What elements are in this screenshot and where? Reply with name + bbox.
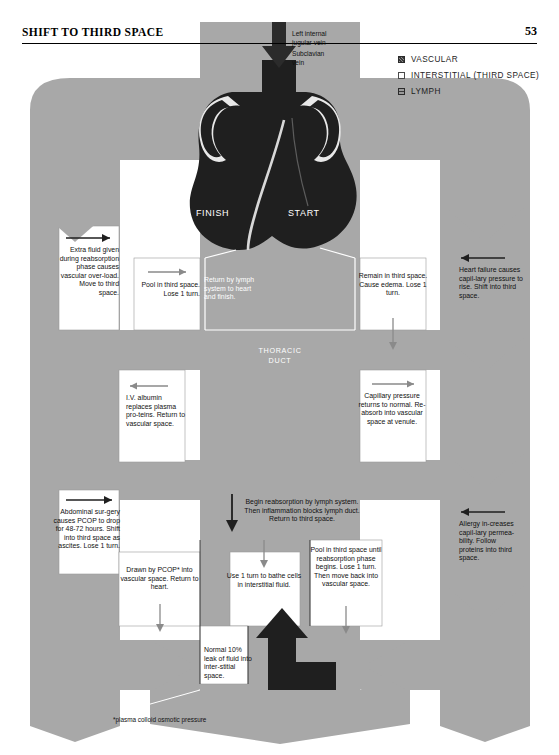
label-finish: FINISH — [196, 208, 229, 218]
cell-allergy: Allergy in-creases capil-lary permea-bil… — [459, 520, 521, 563]
cell-extra-fluid: Extra fluid given during reabsorption ph… — [57, 246, 119, 298]
cell-normal-leak: Normal 10% leak of fluid into inter-stit… — [204, 646, 252, 680]
legend: VASCULAR INTERSTITIAL (THIRD SPACE) LYMP… — [398, 53, 558, 101]
page-title: SHIFT TO THIRD SPACE — [22, 26, 163, 38]
cell-capillary-pressure: Capillary pressure returns to normal. Re… — [356, 392, 428, 426]
cell-begin-reabsorption: Begin reabsorption by lymph system. Then… — [240, 498, 364, 524]
cell-remain-third-space: Remain in third space. Cause edema. Lose… — [358, 272, 428, 298]
legend-swatch-vascular — [398, 56, 405, 63]
cell-heart-failure: Heart failure causes capil-lary pressure… — [459, 266, 523, 300]
legend-label-lymph: LYMPH — [411, 87, 441, 96]
cell-return-by-lymph: Return by lymph system to heart and fini… — [204, 276, 258, 302]
header-rule — [22, 43, 537, 44]
cell-abdominal-surgery: Abdominal sur-gery causes PCOP to drop f… — [50, 508, 120, 551]
label-left-internal-jugular-vein: Left internal — [292, 30, 362, 38]
legend-swatch-lymph — [398, 88, 405, 95]
label-thoracic-duct-line2: DUCT — [206, 356, 354, 365]
legend-item-interstitial: INTERSTITIAL (THIRD SPACE) — [398, 69, 558, 82]
cell-pool-until-reabsorption: Pool in third space until reabsorption p… — [310, 546, 382, 589]
diagram-canvas — [0, 0, 559, 755]
page-number: 53 — [525, 24, 537, 39]
cell-drawn-by-pcop: Drawn by PCOP* into vascular space. Retu… — [119, 566, 200, 592]
page-root: SHIFT TO THIRD SPACE 53 VASCULAR INTERST… — [0, 0, 559, 755]
label-jugular-vein-line2: jugular vein — [292, 39, 362, 47]
cell-iv-albumin: I.V. albumin replaces plasma pro-teins. … — [126, 394, 188, 428]
label-start: START — [288, 208, 320, 218]
label-subclavian-vein: Subclavian — [292, 50, 362, 58]
cell-use-one-turn: Use 1 turn to bathe cells in interstitia… — [226, 572, 302, 589]
legend-label-interstitial: INTERSTITIAL (THIRD SPACE) — [411, 71, 539, 80]
legend-item-lymph: LYMPH — [398, 85, 558, 98]
legend-item-vascular: VASCULAR — [398, 53, 558, 66]
legend-label-vascular: VASCULAR — [411, 55, 458, 64]
legend-swatch-interstitial — [398, 72, 405, 79]
label-thoracic-duct-line1: THORACIC — [206, 346, 354, 355]
label-subclavian-vein-line2: vein — [292, 59, 362, 67]
board-svg — [0, 0, 559, 755]
cell-pool-third-space: Pool in third space. Lose 1 turn. — [130, 281, 200, 298]
footnote: *plasma colloid osmotic pressure — [113, 716, 206, 723]
